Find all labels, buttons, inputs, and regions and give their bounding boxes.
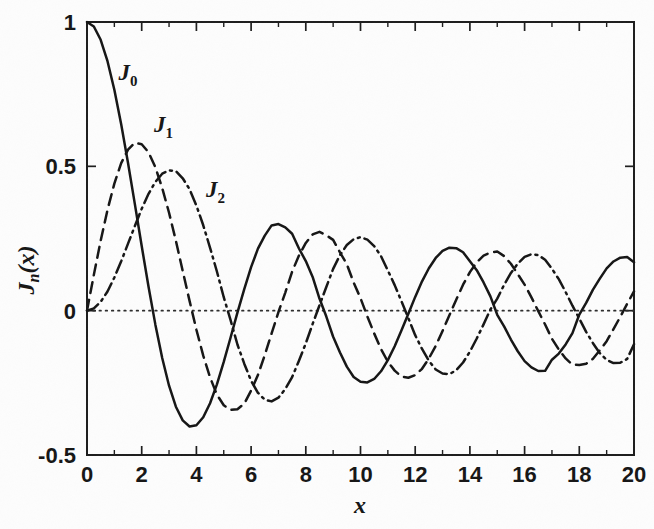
x-axis-ticks	[87, 22, 634, 455]
curve-label-text: J1	[153, 112, 173, 141]
x-tick-label: 16	[512, 462, 536, 487]
figure-container: 02468101214161820 10.50-0.5 J0J1J2 x Jn(…	[0, 0, 654, 529]
curve-labels: J0J1J2	[117, 60, 225, 206]
x-tick-label: 20	[622, 462, 646, 487]
bessel-function-chart: 02468101214161820 10.50-0.5 J0J1J2 x Jn(…	[0, 0, 654, 529]
series-line-j-1	[87, 143, 634, 410]
y-tick-label: -0.5	[38, 443, 76, 468]
curve-label-text: J2	[205, 177, 225, 206]
x-tick-label: 4	[190, 462, 203, 487]
x-tick-label: 0	[81, 462, 93, 487]
y-axis-tick-labels: 10.50-0.5	[38, 10, 76, 468]
x-axis-title: x	[353, 492, 366, 518]
y-tick-label: 0	[64, 299, 76, 324]
curve-label-j-1: J1	[153, 112, 173, 141]
x-tick-label: 6	[245, 462, 257, 487]
y-tick-label: 0.5	[45, 154, 76, 179]
curve-label-text: J0	[117, 60, 137, 89]
plot-frame	[87, 22, 634, 455]
y-axis-title: Jn(x)	[13, 246, 42, 296]
x-axis-tick-labels: 02468101214161820	[81, 462, 646, 487]
data-curves	[87, 22, 634, 427]
y-axis-title-text: Jn(x)	[13, 246, 42, 296]
y-tick-label: 1	[64, 10, 76, 35]
series-line-j-2	[87, 170, 634, 401]
x-tick-label: 12	[403, 462, 427, 487]
y-axis-ticks	[87, 22, 634, 455]
x-tick-label: 8	[300, 462, 312, 487]
x-tick-label: 18	[567, 462, 591, 487]
x-tick-label: 10	[348, 462, 372, 487]
x-tick-label: 2	[136, 462, 148, 487]
curve-label-j-2: J2	[205, 177, 225, 206]
curve-label-j-0: J0	[117, 60, 137, 89]
x-tick-label: 14	[458, 462, 483, 487]
series-line-j-0	[87, 22, 634, 427]
